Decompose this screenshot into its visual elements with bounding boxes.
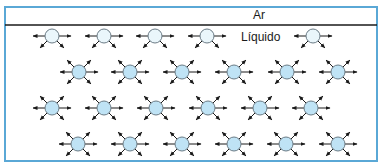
force-arrow-se	[160, 41, 167, 48]
force-arrow-sw	[299, 113, 306, 120]
force-arrow-ne	[84, 60, 91, 67]
force-arrow-sw	[67, 77, 74, 84]
bulk-molecule	[175, 65, 189, 79]
air-label: Ar	[253, 8, 265, 22]
force-arrow-se	[83, 149, 90, 156]
surface-tension-diagram: Ar Líquido	[0, 0, 383, 166]
force-arrow-se	[109, 41, 116, 48]
force-arrow-se	[213, 113, 220, 120]
force-arrow-nw	[248, 96, 255, 103]
force-arrow-ne	[187, 60, 194, 67]
force-arrow-se	[239, 77, 246, 84]
force-arrow-se	[109, 113, 116, 120]
force-arrow-sw	[170, 77, 177, 84]
force-arrow-sw	[144, 113, 151, 120]
force-arrow-sw	[222, 77, 229, 84]
bulk-molecule	[123, 65, 137, 79]
force-arrow-nw	[144, 96, 151, 103]
force-arrow-nw	[170, 132, 177, 139]
force-arrow-sw	[326, 149, 333, 156]
force-arrow-nw	[275, 60, 282, 67]
force-arrow-sw	[275, 77, 282, 84]
force-arrow-nw	[222, 60, 229, 67]
force-arrow-nw	[274, 132, 281, 139]
force-arrow-sw	[143, 41, 150, 48]
force-arrow-nw	[222, 132, 229, 139]
bulk-molecule	[331, 137, 345, 151]
force-arrow-nw	[92, 96, 99, 103]
liquid-label: Líquido	[241, 30, 280, 44]
force-arrow-ne	[343, 132, 350, 139]
force-arrow-nw	[118, 132, 125, 139]
bulk-molecule	[279, 137, 293, 151]
force-arrow-nw	[66, 132, 73, 139]
force-arrow-sw	[118, 77, 125, 84]
force-arrow-se	[161, 113, 168, 120]
force-arrow-sw	[40, 41, 47, 48]
force-arrow-se	[135, 149, 142, 156]
force-arrow-se	[212, 41, 219, 48]
force-arrow-ne	[316, 96, 323, 103]
force-arrow-sw	[301, 41, 308, 48]
surface-molecule	[148, 29, 162, 43]
force-arrow-nw	[118, 60, 125, 67]
force-arrow-ne	[239, 132, 246, 139]
bulk-molecule	[280, 65, 294, 79]
force-arrow-ne	[187, 132, 194, 139]
force-arrow-sw	[170, 149, 177, 156]
force-arrow-se	[291, 149, 298, 156]
bulk-molecule	[227, 65, 241, 79]
force-arrow-se	[187, 149, 194, 156]
force-arrow-se	[292, 77, 299, 84]
force-arrow-sw	[248, 113, 255, 120]
molecule-diagram	[0, 0, 383, 166]
bulk-molecule	[175, 137, 189, 151]
bulk-molecule	[72, 65, 86, 79]
force-arrow-nw	[40, 96, 47, 103]
force-arrow-sw	[92, 41, 99, 48]
force-arrow-sw	[92, 113, 99, 120]
force-arrow-sw	[195, 41, 202, 48]
force-arrow-se	[84, 77, 91, 84]
bulk-molecule	[227, 137, 241, 151]
force-arrow-ne	[291, 132, 298, 139]
force-arrow-se	[316, 113, 323, 120]
bulk-molecule	[71, 137, 85, 151]
force-arrow-sw	[196, 113, 203, 120]
force-arrow-se	[135, 77, 142, 84]
force-arrow-se	[343, 77, 350, 84]
force-arrow-sw	[222, 149, 229, 156]
bulk-molecule	[201, 101, 215, 115]
force-arrow-ne	[109, 96, 116, 103]
force-arrow-ne	[135, 132, 142, 139]
force-arrow-ne	[213, 96, 220, 103]
force-arrow-ne	[292, 60, 299, 67]
bulk-molecule	[97, 101, 111, 115]
force-arrow-sw	[274, 149, 281, 156]
force-arrow-sw	[40, 113, 47, 120]
force-arrow-nw	[299, 96, 306, 103]
force-arrow-se	[318, 41, 325, 48]
force-arrow-se	[343, 149, 350, 156]
force-arrow-sw	[326, 77, 333, 84]
force-arrow-nw	[67, 60, 74, 67]
force-arrow-nw	[170, 60, 177, 67]
bulk-molecule	[45, 101, 59, 115]
force-arrow-se	[239, 149, 246, 156]
surface-molecule	[306, 29, 320, 43]
force-arrow-se	[265, 113, 272, 120]
bulk-molecule	[253, 101, 267, 115]
bulk-molecule	[123, 137, 137, 151]
force-arrow-se	[57, 41, 64, 48]
force-arrow-ne	[239, 60, 246, 67]
surface-molecule	[97, 29, 111, 43]
force-arrow-se	[57, 113, 64, 120]
force-arrow-ne	[265, 96, 272, 103]
force-arrow-ne	[135, 60, 142, 67]
bulk-molecule	[331, 65, 345, 79]
force-arrow-nw	[326, 132, 333, 139]
force-arrow-sw	[118, 149, 125, 156]
force-arrow-nw	[196, 96, 203, 103]
surface-molecule	[200, 29, 214, 43]
bulk-molecule	[304, 101, 318, 115]
